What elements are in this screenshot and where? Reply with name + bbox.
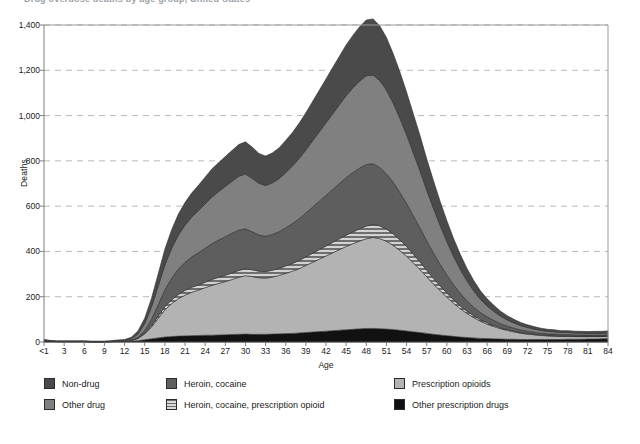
legend-label: Heroin, cocaine, prescription opioid	[184, 400, 325, 410]
legend-swatch-icon	[166, 378, 177, 389]
legend-item[interactable]: Prescription opioids	[394, 378, 491, 389]
legend-label: Prescription opioids	[412, 379, 491, 389]
chart-legend: Non-drugOther drugHeroin, cocaineHeroin,…	[44, 378, 624, 422]
legend-item[interactable]: Other prescription drugs	[394, 399, 509, 410]
legend-swatch-icon	[394, 378, 405, 389]
legend-swatch-icon	[166, 399, 177, 410]
legend-item[interactable]: Non-drug	[44, 378, 100, 389]
legend-label: Other prescription drugs	[412, 400, 509, 410]
legend-item[interactable]: Heroin, cocaine, prescription opioid	[166, 399, 325, 410]
legend-swatch-icon	[394, 399, 405, 410]
legend-swatch-icon	[44, 399, 55, 410]
legend-item[interactable]: Heroin, cocaine	[166, 378, 247, 389]
legend-label: Non-drug	[62, 379, 100, 389]
legend-label: Other drug	[62, 400, 105, 410]
legend-swatch-icon	[44, 378, 55, 389]
chart-figure: Drug overdose deaths by age group, Unite…	[0, 0, 640, 444]
legend-item[interactable]: Other drug	[44, 399, 105, 410]
legend-label: Heroin, cocaine	[184, 379, 247, 389]
